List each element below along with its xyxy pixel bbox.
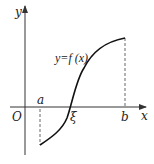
origin-label: O — [12, 110, 22, 124]
y-axis-label: y — [14, 5, 22, 19]
point-b-label: b — [121, 110, 129, 124]
point-xi-label: ξ — [70, 110, 78, 124]
x-axis-label: x — [141, 109, 148, 123]
curve-label: y=f (x) — [54, 51, 88, 65]
point-a-label: a — [37, 93, 44, 107]
function-graph: y x O a b ξ y=f (x) — [0, 0, 154, 164]
